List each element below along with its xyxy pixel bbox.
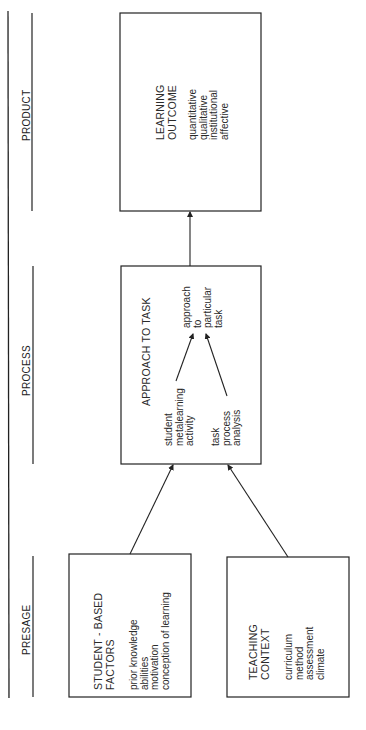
title-line: FACTORS: [105, 593, 117, 690]
teaching-context-items: curriculum method assessment climate: [284, 627, 326, 680]
outcome-item: affective: [220, 89, 231, 140]
stage-label-presage: PRESAGE: [21, 605, 32, 655]
context-item: climate: [316, 627, 327, 680]
stage-label-product: PRODUCT: [21, 89, 32, 141]
learning-outcome-items: quantitative qualitative institutional a…: [188, 89, 230, 140]
outcome-item: institutional: [209, 89, 220, 140]
outcome-item: quantitative: [188, 89, 199, 140]
learning-outcome-title: LEARNING OUTCOME: [155, 85, 178, 140]
context-item: curriculum: [284, 627, 295, 680]
factor-item: conception of learning: [161, 592, 172, 690]
student-metalearning-text: student metalearning activity: [164, 388, 196, 446]
student-line: student: [164, 388, 175, 446]
stage-label-process: PROCESS: [21, 345, 32, 396]
title-line: CONTEXT: [260, 624, 272, 680]
diagram-lines: [0, 0, 366, 730]
approach-line: particular: [203, 286, 214, 328]
student-based-factors-items: prior knowledge abilities motivation con…: [129, 592, 171, 690]
student-based-factors-title: STUDENT - BASED FACTORS: [93, 593, 116, 690]
factor-item: motivation: [150, 592, 161, 690]
task-line: analysis: [232, 410, 243, 446]
approach-line: approach: [182, 286, 193, 328]
task-line: task: [211, 410, 222, 446]
title-line: LEARNING: [155, 85, 167, 140]
approach-to-particular-task-text: approach to particular task: [182, 286, 224, 328]
task-process-analysis-text: task process analysis: [211, 410, 243, 446]
arrow-task-analysis-to-approach: [206, 334, 227, 396]
title-line: OUTCOME: [167, 85, 179, 140]
approach-to-task-title: APPROACH TO TASK: [141, 297, 153, 406]
arrow-metalearning-to-approach: [176, 334, 193, 381]
outer-axis-line: [8, 11, 9, 698]
student-line: activity: [185, 388, 196, 446]
title-line: STUDENT - BASED: [93, 593, 105, 690]
factor-item: prior knowledge: [129, 592, 140, 690]
approach-line: task: [214, 286, 225, 328]
context-item: assessment: [305, 627, 316, 680]
teaching-context-title: TEACHING CONTEXT: [248, 624, 271, 680]
title-line: TEACHING: [248, 624, 260, 680]
arrow-student-to-approach: [130, 465, 173, 554]
arrow-teaching-to-approach: [228, 465, 288, 557]
